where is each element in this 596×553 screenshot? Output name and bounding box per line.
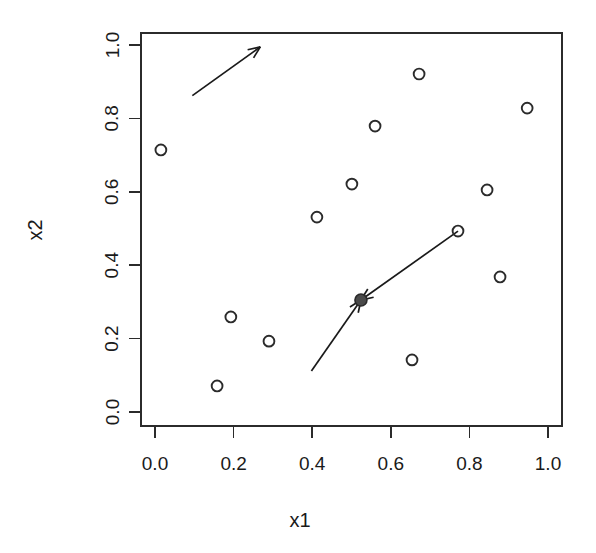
x-tick-label-1.0: 1.0 <box>535 453 561 474</box>
x-tick-label-0.8: 0.8 <box>456 453 482 474</box>
series-highlighted-point <box>355 294 367 306</box>
x-tick-label-0.6: 0.6 <box>378 453 404 474</box>
highlighted-data-point <box>355 294 367 306</box>
y-tick-label-1.0: 1.0 <box>102 32 123 58</box>
y-tick-label-0.8: 0.8 <box>102 105 123 131</box>
y-tick-label-0.0: 0.0 <box>102 399 123 425</box>
y-tick-label-0.2: 0.2 <box>102 325 123 351</box>
y-axis-title: x2 <box>24 219 46 240</box>
x-axis-title: x1 <box>289 509 310 531</box>
y-tick-label-0.6: 0.6 <box>102 179 123 205</box>
x-tick-label-0.2: 0.2 <box>220 453 246 474</box>
y-tick-label-0.4: 0.4 <box>102 252 123 279</box>
plot-canvas: 0.00.20.40.60.81.0 0.00.20.40.60.81.0 x1… <box>0 0 596 553</box>
x-tick-label-0.4: 0.4 <box>299 453 326 474</box>
scatter-plot-figure: 0.00.20.40.60.81.0 0.00.20.40.60.81.0 x1… <box>0 0 596 553</box>
x-tick-label-0.0: 0.0 <box>142 453 168 474</box>
